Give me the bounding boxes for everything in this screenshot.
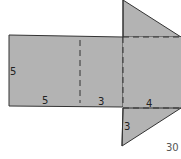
label-triangle-side: 3 (124, 121, 130, 132)
page-number: 30 (166, 142, 179, 153)
label-bottom-middle: 3 (98, 96, 104, 107)
label-bottom-left: 5 (42, 95, 48, 106)
top-triangle-face (123, 0, 181, 37)
rectangular-faces (9, 35, 123, 107)
prism-net-diagram: 5 5 3 4 3 30 (0, 0, 181, 159)
label-left-height: 5 (10, 66, 16, 77)
label-triangle-base: 4 (146, 98, 152, 109)
bottom-triangle-face (122, 108, 181, 146)
